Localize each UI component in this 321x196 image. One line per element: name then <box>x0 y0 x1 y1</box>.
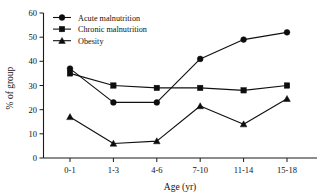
data-point-1-1 <box>111 83 116 88</box>
x-tick-label-5: 15-18 <box>277 165 297 175</box>
data-point-0-4 <box>241 37 247 43</box>
data-point-0-1 <box>111 100 117 106</box>
y-tick-label-0: 0 <box>33 153 37 163</box>
data-point-1-0 <box>67 71 72 76</box>
y-tick-label-10: 10 <box>29 129 38 139</box>
y-tick-label-40: 40 <box>29 56 38 66</box>
data-point-1-3 <box>198 85 203 90</box>
chart-figure: 60 50 40 30 20 10 0 % of group 0-1 1-3 4… <box>0 0 321 196</box>
data-point-0-5 <box>284 29 290 35</box>
data-point-1-5 <box>284 83 289 88</box>
x-tick-label-4: 11-14 <box>234 165 254 175</box>
y-tick-label-60: 60 <box>29 8 38 18</box>
y-tick-label-30: 30 <box>29 81 38 91</box>
legend-label-0: Acute malnutrition <box>78 14 140 23</box>
x-tick-label-2: 4-6 <box>151 165 162 175</box>
y-axis-title: % of group <box>5 66 15 109</box>
legend-label-1: Chronic malnutrition <box>78 25 147 34</box>
y-tick-label-20: 20 <box>29 105 38 115</box>
data-point-0-3 <box>197 56 203 62</box>
y-tick-label-50: 50 <box>29 32 38 42</box>
x-tick-label-0: 0-1 <box>64 165 75 175</box>
circle-marker-icon <box>59 15 65 21</box>
line-chart-canvas: 60 50 40 30 20 10 0 % of group 0-1 1-3 4… <box>0 0 321 196</box>
x-tick-label-1: 1-3 <box>108 165 119 175</box>
legend-label-2: Obesity <box>78 37 104 46</box>
data-point-0-2 <box>154 100 160 106</box>
square-marker-icon <box>59 26 64 31</box>
data-point-1-2 <box>154 85 159 90</box>
x-tick-label-3: 7-10 <box>192 165 208 175</box>
x-axis-title: Age (yr) <box>164 182 196 193</box>
data-point-1-4 <box>241 88 246 93</box>
